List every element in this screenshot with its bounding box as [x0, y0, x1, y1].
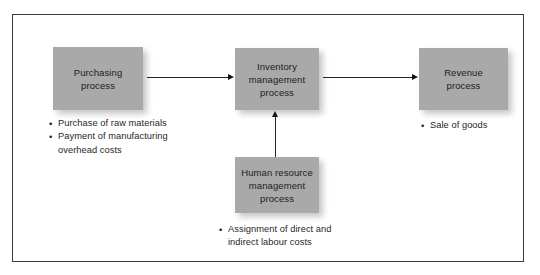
bullet-list-human-resource: Assignment of direct and indirect labour… — [219, 223, 359, 250]
process-box-purchasing-label: Purchasingprocess — [74, 66, 123, 92]
arrow-purchasing-to-inventory-head-icon — [228, 74, 234, 80]
arrow-hr-to-inventory-head-icon — [272, 111, 278, 117]
process-box-revenue[interactable]: Revenueprocess — [419, 48, 508, 110]
list-item: Payment of manufacturing overhead costs — [49, 130, 169, 157]
diagram-canvas: Purchasingprocess Inventorymanagementpro… — [0, 0, 540, 275]
process-box-human-resource-label: Human resourcemanagementprocess — [241, 166, 313, 205]
list-item: Assignment of direct and indirect labour… — [219, 223, 359, 250]
arrow-inventory-to-revenue-line — [323, 77, 413, 78]
arrow-hr-to-inventory-line — [275, 117, 276, 157]
process-box-purchasing[interactable]: Purchasingprocess — [53, 47, 143, 110]
process-box-inventory-label: Inventorymanagementprocess — [249, 60, 305, 99]
bullet-list-revenue: Sale of goods — [421, 119, 540, 132]
process-box-human-resource[interactable]: Human resourcemanagementprocess — [235, 157, 319, 213]
process-box-revenue-label: Revenueprocess — [444, 66, 483, 92]
arrow-purchasing-to-inventory-line — [147, 77, 229, 78]
diagram-frame: Purchasingprocess Inventorymanagementpro… — [12, 14, 524, 262]
arrow-inventory-to-revenue-head-icon — [412, 74, 418, 80]
process-box-inventory[interactable]: Inventorymanagementprocess — [235, 48, 319, 110]
bullet-list-purchasing: Purchase of raw materials Payment of man… — [49, 117, 169, 157]
list-item: Purchase of raw materials — [49, 117, 169, 130]
list-item: Sale of goods — [421, 119, 540, 132]
